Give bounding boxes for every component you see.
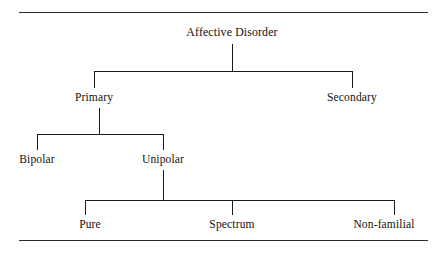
connector-level3-drop-spectrum [232, 200, 233, 215]
connector-primary-stem [99, 108, 100, 134]
connector-root-stem [232, 44, 233, 71]
tree-node-affective-disorder: Affective Disorder [186, 26, 277, 39]
bottom-horizontal-rule [19, 240, 428, 241]
tree-node-secondary: Secondary [327, 91, 377, 104]
figure-canvas: Affective Disorder Primary Secondary Bip… [0, 0, 447, 253]
connector-level1-drop-primary [94, 71, 95, 88]
connector-level3-drop-non-familial [394, 200, 395, 215]
connector-level1-bar [94, 71, 352, 72]
connector-level3-drop-pure [85, 200, 86, 215]
connector-level2-bar [37, 134, 164, 135]
tree-node-pure: Pure [79, 218, 101, 231]
tree-node-non-familial: Non-familial [353, 218, 414, 231]
tree-node-primary: Primary [75, 91, 113, 104]
connector-level2-drop-unipolar [163, 134, 164, 150]
connector-level3-bar [85, 200, 394, 201]
tree-node-bipolar: Bipolar [19, 153, 55, 166]
tree-node-spectrum: Spectrum [209, 218, 254, 231]
connector-unipolar-stem [163, 170, 164, 200]
connector-level1-drop-secondary [352, 71, 353, 88]
connector-level2-drop-bipolar [37, 134, 38, 150]
top-horizontal-rule [19, 12, 428, 13]
tree-node-unipolar: Unipolar [142, 153, 184, 166]
